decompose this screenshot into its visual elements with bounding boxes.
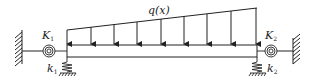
right-rotational-spring-icon: [257, 45, 277, 57]
left-fixed-wall: [15, 30, 22, 66]
right-rotational-spring-label: K2: [264, 29, 277, 42]
beam-diagram: K1 q(x) k1 k2: [0, 0, 315, 82]
left-translational-spring-icon: [59, 57, 76, 76]
right-translational-spring-icon: [249, 57, 266, 76]
left-translational-spring-label: k1: [47, 62, 58, 75]
beam: [67, 45, 257, 57]
right-translational-spring-label: k2: [267, 62, 278, 75]
load-label: q(x): [148, 4, 170, 17]
left-rotational-spring-icon: [43, 45, 67, 57]
left-rotational-spring-label: K1: [41, 29, 54, 42]
right-fixed-wall: [293, 34, 300, 64]
